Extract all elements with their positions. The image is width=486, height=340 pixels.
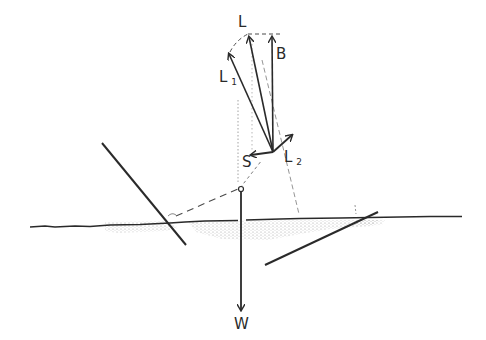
diagram-canvas: L B L 1 L 2 S W <box>0 0 486 340</box>
label-W: W <box>234 315 249 333</box>
vector-B <box>272 37 273 152</box>
label-B: B <box>276 45 286 63</box>
vector-L1 <box>229 54 273 152</box>
label-L: L <box>238 13 247 31</box>
force-vectors <box>229 37 292 310</box>
label-L2: L 2 <box>284 148 302 167</box>
vector-L <box>249 37 273 152</box>
construction-lines <box>168 34 356 216</box>
water-shading <box>105 220 385 240</box>
center-of-mass-point <box>239 187 244 192</box>
right-oar <box>265 212 378 265</box>
label-L1: L 1 <box>219 68 237 87</box>
vector-S <box>251 152 273 155</box>
force-diagram: L B L 1 L 2 S W <box>0 0 486 340</box>
label-S: S <box>242 153 252 171</box>
